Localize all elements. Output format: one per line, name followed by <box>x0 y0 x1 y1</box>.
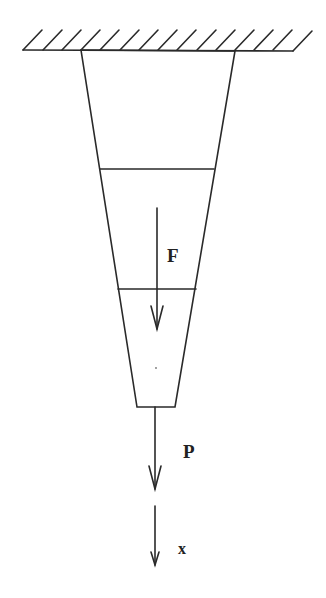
ceiling-hatching <box>23 30 312 51</box>
fixed-support <box>23 30 312 51</box>
force-f-arrow <box>151 208 163 329</box>
label-f: F <box>167 245 179 266</box>
tapered-bar-diagram: F P x <box>0 0 326 598</box>
label-x: x <box>178 540 186 557</box>
tapered-bar <box>81 50 235 407</box>
force-p-arrow <box>149 407 161 489</box>
center-dot <box>155 367 157 369</box>
x-axis-arrow <box>151 506 159 565</box>
label-p: P <box>183 441 195 462</box>
